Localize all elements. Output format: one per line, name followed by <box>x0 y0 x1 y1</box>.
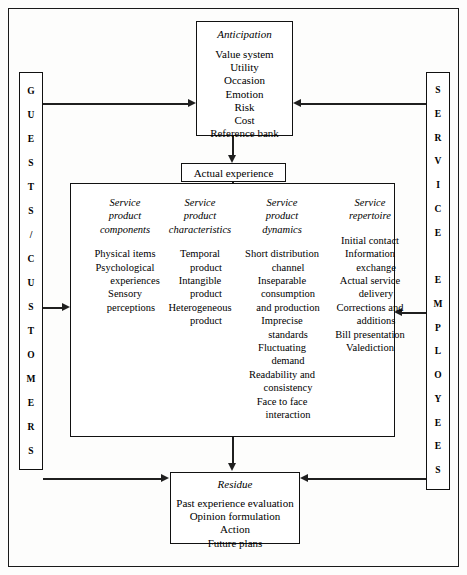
item-line: Temporal <box>159 247 241 260</box>
service-employees-bar[interactable]: SERVICE EMPLOYEES <box>426 72 450 490</box>
item-line: additions <box>324 314 416 327</box>
bar-letter: E <box>20 127 42 151</box>
actual-experience-label: Actual experience <box>194 167 274 179</box>
text-line: Past experience evaluation <box>171 497 299 510</box>
item-line: Corrections and <box>324 301 416 314</box>
item-line: Inseparable <box>236 274 328 287</box>
bar-letter: S <box>20 295 42 319</box>
actual-experience-box[interactable]: Actual experience <box>181 163 286 182</box>
connector-guests-to-residue <box>43 478 161 480</box>
connector-employees-to-anticipation <box>301 103 426 105</box>
column-service-product-components: Serviceproductcomponents Physical itemsP… <box>83 196 167 314</box>
item-line: exchange <box>324 261 416 274</box>
bar-letter: Y <box>427 388 449 412</box>
item-line: standards <box>236 328 328 341</box>
item-line: Fluctuating <box>236 341 328 354</box>
column-heading: Servicerepertoire <box>324 196 416 223</box>
text-line: Utility <box>197 61 292 74</box>
bar-letter <box>427 245 449 269</box>
column-items: Short distributionchannelInseparablecons… <box>236 247 328 421</box>
item-line: demand <box>236 354 328 367</box>
heading-line: Service <box>324 196 416 209</box>
bar-letter: P <box>427 317 449 341</box>
arrowhead-guests-to-servicebox <box>62 303 70 311</box>
heading-line: product <box>236 209 328 222</box>
item-line: channel <box>236 261 328 274</box>
bar-letter: S <box>20 439 42 463</box>
anticipation-box[interactable]: Anticipation Value systemUtilityOccasion… <box>196 21 293 136</box>
column-items: Initial contactInformationexchangeActual… <box>324 234 416 355</box>
connector-employees-to-residue <box>308 478 426 480</box>
text-line: Reference bank <box>197 127 292 140</box>
bar-letter: E <box>427 435 449 459</box>
bar-letter: I <box>427 174 449 198</box>
column-heading: Serviceproductcharacteristics <box>159 196 241 236</box>
bar-letter: U <box>20 271 42 295</box>
column-service-product-dynamics: Serviceproductdynamics Short distributio… <box>236 196 328 422</box>
residue-items: Past experience evaluationOpinion formul… <box>171 497 299 550</box>
item-line: consistency <box>236 381 328 394</box>
column-items: TemporalproductIntangibleproductHeteroge… <box>159 247 241 327</box>
bar-letter: S <box>427 79 449 103</box>
anticipation-items: Value systemUtilityOccasionEmotionRiskCo… <box>197 48 292 140</box>
item-line: Intangible <box>159 274 241 287</box>
bar-letter: O <box>427 364 449 388</box>
arrowhead-anticipation-to-actual <box>228 155 236 163</box>
heading-line: Service <box>159 196 241 209</box>
service-attributes-box[interactable]: Serviceproductcomponents Physical itemsP… <box>70 183 395 437</box>
arrowhead-servicebox-to-residue <box>228 463 236 471</box>
bar-letter: R <box>427 127 449 151</box>
item-line: Actual service <box>324 274 416 287</box>
residue-box[interactable]: Residue Past experience evaluationOpinio… <box>170 472 300 544</box>
bar-letter: E <box>427 269 449 293</box>
bar-letter: E <box>427 412 449 436</box>
item-line: Valediction <box>324 341 416 354</box>
bar-letter: E <box>427 222 449 246</box>
column-service-product-characteristics: Serviceproductcharacteristics Temporalpr… <box>159 196 241 328</box>
text-line: Occasion <box>197 74 292 87</box>
text-line: Opinion formulation <box>171 510 299 523</box>
text-line: Emotion <box>197 88 292 101</box>
bar-letter: L <box>427 340 449 364</box>
bar-letter: E <box>20 391 42 415</box>
item-line: Bill presentation <box>324 328 416 341</box>
item-line: product <box>159 287 241 300</box>
bar-letter: M <box>427 293 449 317</box>
bar-letter: S <box>20 151 42 175</box>
item-line: interaction <box>236 408 328 421</box>
bar-letter: C <box>427 198 449 222</box>
connector-guests-to-servicebox <box>43 307 63 309</box>
text-line: Action <box>171 523 299 536</box>
text-line: Risk <box>197 101 292 114</box>
guests-customers-bar[interactable]: GUESTS/CUSTOMERS <box>19 72 43 470</box>
item-line: Heterogeneous <box>159 301 241 314</box>
heading-line: product <box>159 209 241 222</box>
heading-line: characteristics <box>159 223 241 236</box>
arrowhead-employees-to-anticipation <box>293 99 301 107</box>
bar-letter: S <box>427 459 449 483</box>
bar-letter: G <box>20 79 42 103</box>
item-line: and production <box>236 301 328 314</box>
bar-letter: / <box>20 223 42 247</box>
bar-letter: O <box>20 343 42 367</box>
bar-letter: C <box>20 247 42 271</box>
column-heading: Serviceproductdynamics <box>236 196 328 236</box>
diagram-canvas: Anticipation Value systemUtilityOccasion… <box>0 0 467 575</box>
connector-guests-to-anticipation <box>43 103 188 105</box>
heading-line: product <box>83 209 167 222</box>
item-line: Initial contact <box>324 234 416 247</box>
bar-letter: T <box>20 175 42 199</box>
item-line: perceptions <box>83 301 167 314</box>
connector-servicebox-to-residue <box>232 437 234 463</box>
text-line: Value system <box>197 48 292 61</box>
heading-line: Service <box>83 196 167 209</box>
item-line: Short distribution <box>236 247 328 260</box>
column-heading: Serviceproductcomponents <box>83 196 167 236</box>
item-line: experiences <box>83 274 167 287</box>
item-line: Physical items <box>83 247 167 260</box>
arrowhead-guests-to-anticipation <box>188 99 196 107</box>
item-line: Psychological <box>83 261 167 274</box>
bar-letter: V <box>427 150 449 174</box>
heading-line: components <box>83 223 167 236</box>
bar-letter: S <box>20 199 42 223</box>
